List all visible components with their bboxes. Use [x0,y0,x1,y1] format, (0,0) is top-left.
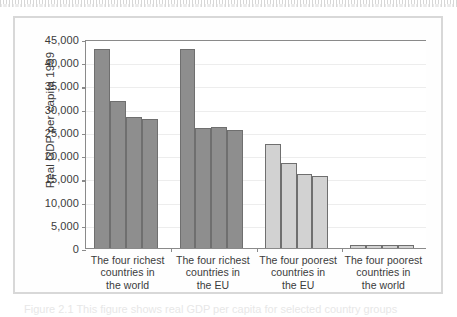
y-tickmark [82,41,86,42]
category-label-line: The four richest [85,254,170,266]
category-label-line: the world [85,279,170,291]
bar [312,176,328,248]
bar [211,127,227,248]
bars-layer [86,41,426,248]
y-tick-label: 15,000 [25,174,79,184]
x-axis-group-separator [257,248,258,252]
category-label-line: the EU [170,279,255,291]
bar [265,144,281,248]
x-axis-category-label: The four poorestcountries inthe EU [256,254,341,291]
bar-group [180,41,244,248]
category-label-line: countries in [170,266,255,278]
x-axis-category-labels: The four richestcountries inthe worldThe… [85,254,426,302]
category-label-line: The four poorest [256,254,341,266]
y-tickmark [82,134,86,135]
bar [398,245,414,248]
category-label-line: The four richest [170,254,255,266]
y-tickmark [82,204,86,205]
category-label-line: countries in [85,266,170,278]
bar-group [94,41,158,248]
bar-group [350,41,414,248]
bar [180,49,196,248]
y-tickmark [82,250,86,251]
x-axis-category-label: The four poorestcountries inthe world [341,254,426,291]
y-tick-label: 40,000 [25,58,79,68]
y-tick-label: 10,000 [25,198,79,208]
bar [110,101,126,248]
y-tick-label: 35,000 [25,81,79,91]
x-axis-category-label: The four richestcountries inthe EU [170,254,255,291]
y-axis-tick-labels: 05,00010,00015,00020,00025,00030,00035,0… [25,16,79,294]
y-tickmark [82,64,86,65]
bar [142,119,158,248]
x-axis-category-label: The four richestcountries inthe world [85,254,170,291]
y-tick-label: 0 [25,244,79,254]
bar [281,163,297,248]
bar [126,117,142,248]
chart-container: Real GDP per capita 1999 05,00010,00015,… [13,16,443,294]
y-tickmark [82,180,86,181]
y-tick-label: 20,000 [25,151,79,161]
category-label-line: the EU [256,279,341,291]
category-label-line: the world [341,279,426,291]
y-tick-label: 45,000 [25,35,79,45]
category-label-line: countries in [341,266,426,278]
bar [227,130,243,248]
x-axis-group-separator [342,248,343,252]
y-tickmark [82,111,86,112]
bar [350,245,366,248]
bar-group [265,41,329,248]
scan-artifact-strip-secondary [0,4,457,7]
bar [94,49,110,248]
bar [297,174,313,248]
y-tickmark [82,227,86,228]
bar [366,245,382,248]
category-label-line: The four poorest [341,254,426,266]
plot-area [85,40,426,249]
figure-caption-cutoff: Figure 2.1 This figure shows real GDP pe… [24,303,444,317]
bar [382,245,398,248]
category-label-line: countries in [256,266,341,278]
y-tick-label: 25,000 [25,128,79,138]
y-tickmark [82,157,86,158]
x-axis-group-separator [171,248,172,252]
bar [195,128,211,248]
y-tick-label: 5,000 [25,221,79,231]
y-tickmark [82,87,86,88]
y-tick-label: 30,000 [25,105,79,115]
